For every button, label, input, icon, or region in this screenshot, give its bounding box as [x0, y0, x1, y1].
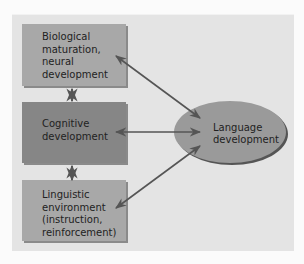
arrow-bio-lang	[116, 56, 200, 118]
arrow-ling-lang	[116, 146, 200, 208]
arrows-layer	[0, 0, 304, 264]
